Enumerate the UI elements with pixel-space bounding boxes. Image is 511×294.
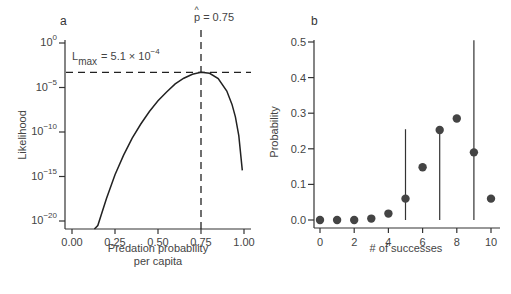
y-tick-label: 0.3 [291,107,306,119]
x-axis-title: # of successes [370,242,443,254]
data-point [487,194,495,202]
data-point [384,209,392,217]
y-tick-label: 100 [40,33,57,48]
y-axis-title: Probability [268,106,280,158]
likelihood-curve [94,72,242,229]
y-tick-label: 0.5 [291,36,306,48]
data-point [316,216,324,224]
panel-b-label: b [311,14,318,28]
x-tick-label: 8 [454,236,460,248]
y-axis-title: Likelihood [16,110,28,160]
y-tick-label: 0.0 [291,214,306,226]
y-tick-label: 10−20 [31,211,57,226]
x-tick-label: 1.00 [233,236,254,248]
data-point [333,216,341,224]
data-point [436,126,444,134]
data-point [453,114,461,122]
data-point [401,194,409,202]
x-axis-title-line1: Predation probability [108,242,209,254]
x-tick-label: 0 [317,236,323,248]
data-point [470,148,478,156]
y-ticks: 0.00.10.20.30.40.5 [291,36,314,226]
y-tick-label: 10−15 [31,167,57,182]
y-tick-label: 10−5 [36,78,58,93]
figure: a 10010−510−1010−1510−20 0.000.250.500.7… [0,0,511,294]
y-tick-label: 0.2 [291,143,306,155]
x-tick-label: 2 [351,236,357,248]
panel-a-label: a [60,14,67,28]
panel-b: b 0.00.10.20.30.40.5 0246810 Probability… [268,14,500,254]
y-ticks: 10010−510−1010−1510−20 [31,33,65,226]
data-point [418,163,426,171]
y-tick-label: 0.1 [291,178,306,190]
p-hat-annotation: p= 0.75 [194,11,234,23]
data-point [367,214,375,222]
x-axis-title-line2: per capita [134,255,183,267]
x-tick-label: 10 [485,236,497,248]
x-tick-label: 0.00 [61,236,82,248]
y-tick-label: 10−10 [31,122,57,137]
panel-a: a 10010−510−1010−1510−20 0.000.250.500.7… [16,5,255,267]
y-tick-label: 0.4 [291,72,306,84]
l-max-annotation: Lmax= 5.1 × 10−4 [72,47,160,67]
data-point [350,216,358,224]
